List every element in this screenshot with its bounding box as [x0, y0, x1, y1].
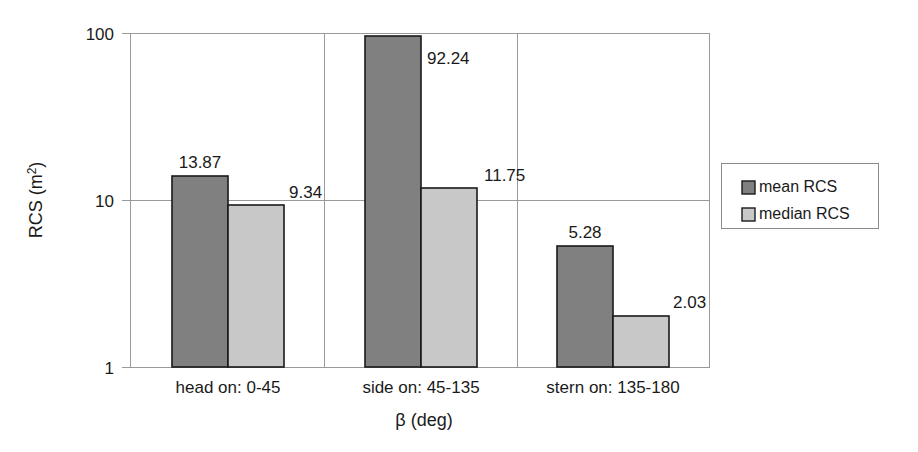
- legend-label-mean-rcs: mean RCS: [759, 178, 837, 195]
- chart-container: 100 10 1 RCS (m2) 13.87 9.34 92.24 11.75…: [0, 0, 918, 452]
- svg-text:RCS (m2): RCS (m2): [25, 162, 46, 239]
- value-label-median-side-on: 11.75: [484, 166, 525, 185]
- bar-median-stern-on[interactable]: [613, 316, 669, 367]
- ytick-label-10: 10: [95, 192, 114, 211]
- bar-mean-side-on[interactable]: [365, 36, 421, 367]
- value-label-median-head-on: 9.34: [289, 183, 322, 202]
- xtick-label-side-on: side on: 45-135: [362, 378, 479, 397]
- ytick-label-1: 1: [105, 359, 114, 378]
- bar-mean-head-on[interactable]: [172, 176, 228, 367]
- bar-mean-stern-on[interactable]: [557, 246, 613, 367]
- ytick-label-100: 100: [86, 25, 114, 44]
- y-axis-title-base: RCS (m: [26, 174, 46, 238]
- bar-median-head-on[interactable]: [228, 205, 284, 367]
- value-label-mean-head-on: 13.87: [179, 153, 222, 172]
- value-label-median-stern-on: 2.03: [673, 293, 706, 312]
- xtick-label-stern-on: stern on: 135-180: [546, 378, 679, 397]
- xtick-label-head-on: head on: 0-45: [176, 378, 281, 397]
- bar-median-side-on[interactable]: [421, 188, 477, 367]
- rcs-bar-chart: 100 10 1 RCS (m2) 13.87 9.34 92.24 11.75…: [0, 0, 918, 452]
- value-label-mean-stern-on: 5.28: [568, 223, 601, 242]
- x-axis-title: β (deg): [395, 410, 452, 430]
- legend-label-median-rcs: median RCS: [759, 205, 850, 222]
- value-label-mean-side-on: 92.24: [427, 49, 470, 68]
- y-axis-title: RCS (m2): [25, 162, 46, 239]
- legend: mean RCS median RCS: [722, 164, 879, 229]
- y-axis-title-close: ): [26, 162, 46, 168]
- legend-item-median-rcs[interactable]: median RCS: [742, 205, 850, 222]
- legend-swatch-mean-icon: [742, 181, 755, 194]
- legend-swatch-median-icon: [742, 208, 755, 221]
